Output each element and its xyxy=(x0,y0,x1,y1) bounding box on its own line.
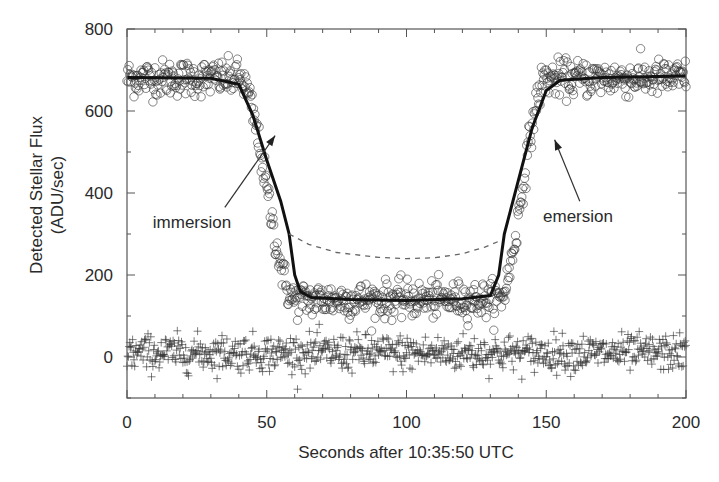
residual-point xyxy=(305,327,313,335)
residual-point xyxy=(266,367,274,375)
residual-point xyxy=(666,350,674,358)
residual-point xyxy=(590,341,598,349)
residual-point xyxy=(288,371,296,379)
flux-point xyxy=(233,55,241,63)
residual-point xyxy=(365,356,373,364)
flux-point xyxy=(681,57,689,65)
residual-point xyxy=(296,361,304,369)
residual-point xyxy=(398,361,406,369)
flux-point xyxy=(224,52,232,60)
residual-point xyxy=(245,366,253,374)
flux-point xyxy=(403,275,411,283)
residual-point xyxy=(481,341,489,349)
flux-point xyxy=(562,97,570,105)
residual-point xyxy=(480,339,488,347)
flux-point xyxy=(165,60,173,68)
flux-point xyxy=(597,88,605,96)
residual-point xyxy=(282,339,290,347)
residual-point xyxy=(491,336,499,344)
residual-point xyxy=(334,341,342,349)
flux-point xyxy=(182,90,190,98)
residual-point xyxy=(505,333,513,341)
y-axis-title-line1: Detected Stellar Flux xyxy=(27,116,46,274)
residual-point xyxy=(470,335,478,343)
residual-point xyxy=(344,364,352,372)
residual-point xyxy=(353,328,361,336)
residual-point xyxy=(528,334,536,342)
residual-point xyxy=(485,375,493,383)
residual-point xyxy=(669,364,677,372)
residual-point xyxy=(648,360,656,368)
occultation-light-curve-chart: 0 50 100 150 200 0 200 400 600 800 Secon… xyxy=(0,0,719,482)
no-atmosphere-model-line xyxy=(289,234,501,259)
residual-point xyxy=(298,342,306,350)
residual-point xyxy=(289,361,297,369)
flux-point xyxy=(293,316,301,324)
residual-point xyxy=(295,343,303,351)
residual-point xyxy=(514,338,522,346)
residual-point xyxy=(594,359,602,367)
residual-point xyxy=(454,338,462,346)
residual-point xyxy=(469,362,477,370)
residual-point xyxy=(315,320,323,328)
flux-point xyxy=(532,89,540,97)
residual-point xyxy=(537,340,545,348)
residual-point xyxy=(621,357,629,365)
flux-point xyxy=(202,80,210,88)
residual-point xyxy=(361,360,369,368)
residual-point xyxy=(558,329,566,337)
residual-point xyxy=(665,365,673,373)
residual-point xyxy=(552,336,560,344)
residual-point xyxy=(459,330,467,338)
residual-point xyxy=(406,364,414,372)
residual-point xyxy=(290,339,298,347)
residual-point xyxy=(452,363,460,371)
residual-point xyxy=(646,333,654,341)
residual-point xyxy=(382,351,390,359)
residual-point xyxy=(457,362,465,370)
residual-point xyxy=(434,334,442,342)
residual-point xyxy=(297,341,305,349)
residual-point xyxy=(124,352,132,360)
flux-point xyxy=(471,280,479,288)
x-tick-label: 150 xyxy=(532,413,560,432)
residual-point xyxy=(346,337,354,345)
residual-point xyxy=(194,327,202,335)
residual-point xyxy=(313,329,321,337)
residual-point xyxy=(173,327,181,335)
flux-point xyxy=(367,327,375,335)
residual-point xyxy=(155,364,163,372)
flux-point xyxy=(490,326,498,334)
residual-point xyxy=(218,332,226,340)
residual-point xyxy=(587,352,595,360)
residual-point xyxy=(632,356,640,364)
residual-point xyxy=(242,336,250,344)
flux-point xyxy=(490,309,498,317)
residual-point xyxy=(237,369,245,377)
flux-point xyxy=(560,66,568,74)
residual-point xyxy=(567,373,575,381)
flux-point xyxy=(371,314,379,322)
residual-point xyxy=(394,337,402,345)
residual-point xyxy=(579,332,587,340)
flux-point xyxy=(482,313,490,321)
residual-point xyxy=(516,354,524,362)
flux-point xyxy=(397,313,405,321)
residual-point xyxy=(208,364,216,372)
residual-point xyxy=(479,361,487,369)
residual-point xyxy=(550,327,558,335)
residual-point xyxy=(393,341,401,349)
residual-point xyxy=(383,334,391,342)
residual-point xyxy=(386,352,394,360)
residual-point xyxy=(298,365,306,373)
residual-point xyxy=(427,359,435,367)
residual-point xyxy=(553,371,561,379)
residual-point xyxy=(556,350,564,358)
residual-point xyxy=(384,335,392,343)
residual-point xyxy=(591,351,599,359)
residual-point xyxy=(219,339,227,347)
residual-point xyxy=(312,357,320,365)
residual-point xyxy=(649,335,657,343)
residual-point xyxy=(199,363,207,371)
flux-point xyxy=(258,163,266,171)
